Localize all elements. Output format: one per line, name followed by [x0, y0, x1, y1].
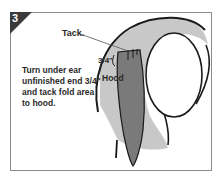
ear-shape: [117, 50, 144, 166]
face-opening: [146, 33, 202, 117]
hood-edge-bottom: [116, 140, 117, 158]
instruction-text: Turn under ear unfinished end 3/4" and t…: [22, 65, 102, 109]
hood-label: Hood: [102, 73, 124, 83]
tack-label: Tack.: [62, 28, 84, 38]
measurement-label: 3/4": [98, 56, 113, 65]
